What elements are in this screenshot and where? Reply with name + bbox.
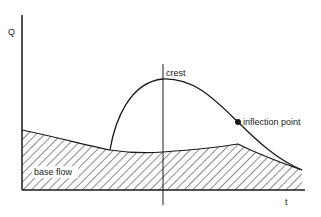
- x-axis-label: t: [285, 197, 288, 207]
- hydrograph-diagram: Q t crest inflection point base flow: [0, 0, 321, 217]
- base-flow-label: base flow: [34, 167, 73, 177]
- inflection-point-label: inflection point: [243, 117, 301, 127]
- inflection-point-marker: [235, 119, 241, 125]
- crest-label: crest: [166, 68, 186, 78]
- y-axis-label: Q: [8, 27, 15, 37]
